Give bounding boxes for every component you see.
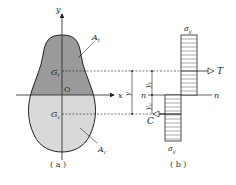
yc-label: yc	[144, 103, 153, 111]
tension-area-label: At	[91, 33, 101, 43]
compression-force-label: C	[147, 116, 154, 126]
stress-top-label: σy	[184, 25, 192, 35]
tension-force-label: T	[217, 66, 224, 76]
yt-label: yt	[144, 81, 153, 89]
neutral-axis-left-label: n	[141, 91, 146, 100]
caption-a: ( a )	[50, 160, 66, 169]
compression-stress-block	[165, 95, 181, 141]
plastic-section-diagram: y x O Gt Gc At Ac y yt yc n n σy	[0, 0, 236, 185]
origin-label: O	[64, 85, 71, 94]
lever-arm-label: y	[124, 91, 132, 97]
x-axis-label: x	[118, 91, 123, 100]
stress-bottom-label: σy	[168, 145, 176, 155]
neutral-axis-right-label: n	[214, 91, 219, 100]
tension-stress-block	[181, 35, 197, 95]
tension-force-arrow	[197, 68, 214, 74]
y-axis-label: y	[55, 5, 61, 14]
compression-area-label: Ac	[97, 145, 107, 155]
caption-b: ( b )	[170, 160, 186, 169]
